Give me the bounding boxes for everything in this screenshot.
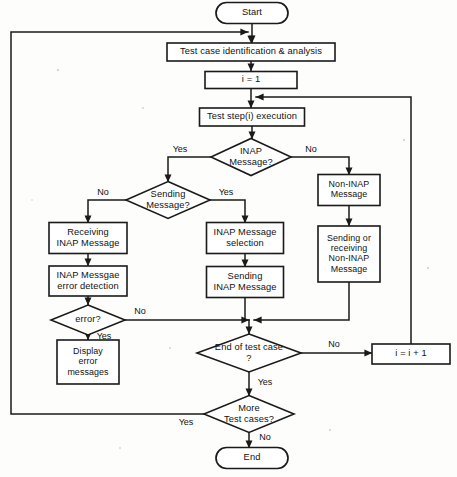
node-label-sendq: Message? <box>146 200 190 210</box>
node-sendinap[interactable]: SendingINAP Message <box>207 267 284 298</box>
edge-label-e-endcaseq-increment: No <box>328 339 340 349</box>
edge-e-sendq-msgselect <box>210 200 245 223</box>
edge-e-increment-teststep <box>256 97 411 344</box>
node-label-recvinap: INAP Message <box>56 238 119 248</box>
node-label-identify: Test case identification & analysis <box>180 46 322 56</box>
node-teststep[interactable]: Test step(i) execution <box>200 108 305 126</box>
node-label-inapq: Message? <box>229 157 273 167</box>
node-label-sendinap: Sending <box>228 271 263 281</box>
node-label-sendinap: INAP Message <box>213 282 276 292</box>
edge-label-e-inapq-noninap: No <box>305 144 317 154</box>
node-label-recvinap: Receiving <box>67 227 109 237</box>
node-label-msgselect: selection <box>226 238 264 248</box>
edge-e-inapq-sendq <box>168 157 211 182</box>
flowchart-svg: StartTest case identification & analysis… <box>0 0 457 477</box>
node-inapq[interactable]: INAPMessage? <box>211 139 291 176</box>
edge-e-sendq-recvinap <box>88 200 126 223</box>
nodes-layer: StartTest case identification & analysis… <box>49 3 450 469</box>
node-label-msgselect: INAP Message <box>213 227 276 237</box>
node-label-sendrecv: Message <box>331 264 368 274</box>
node-identify[interactable]: Test case identification & analysis <box>167 43 335 61</box>
node-label-teststep: Test step(i) execution <box>207 111 297 121</box>
node-display[interactable]: Displayerrormessages <box>57 340 119 384</box>
node-label-morecasesq: More <box>238 403 260 413</box>
node-label-errdetect: INAP Messgae <box>56 270 119 280</box>
edge-label-e-inapq-sendq: Yes <box>173 144 188 154</box>
node-label-morecasesq: Test cases? <box>224 414 274 424</box>
node-label-noninap: Non-INAP <box>329 179 370 189</box>
node-label-display: Display <box>73 346 103 356</box>
node-label-endcaseq: ? <box>246 353 251 363</box>
node-label-errorq: error? <box>75 314 100 324</box>
node-errdetect[interactable]: INAP Messgaeerror detection <box>49 266 127 296</box>
edge-label-e-endcaseq-morecases: Yes <box>258 377 273 387</box>
node-sendrecv[interactable]: Sending orreceivingNon-INAPMessage <box>318 226 380 282</box>
edge-label-e-errorq-display: Yes <box>97 331 112 341</box>
edge-label-e-morecases-end: No <box>259 432 271 442</box>
node-label-sendq: Sending <box>151 189 186 199</box>
node-msgselect[interactable]: INAP Messageselection <box>207 223 284 254</box>
loop-arrowhead-into-identify <box>247 36 254 43</box>
edge-e-inapq-noninap <box>291 157 349 175</box>
node-noninap[interactable]: Non-INAPMessage <box>318 175 380 206</box>
node-morecasesq[interactable]: MoreTest cases? <box>204 396 294 433</box>
flowchart-canvas: StartTest case identification & analysis… <box>0 0 457 477</box>
node-label-sendrecv: Sending or <box>327 233 371 243</box>
edge-label-e-errorq-join: No <box>134 306 146 316</box>
node-label-noninap: Message <box>331 189 368 199</box>
node-label-display: messages <box>67 367 109 377</box>
node-errorq[interactable]: error? <box>51 305 125 335</box>
node-label-sendrecv: receiving <box>331 243 367 253</box>
node-label-errdetect: error detection <box>57 281 118 291</box>
node-increment[interactable]: i = i + 1 <box>372 344 450 364</box>
node-label-start: Start <box>242 7 262 17</box>
edge-label-e-sendq-recvinap: No <box>97 187 109 197</box>
node-sendq[interactable]: SendingMessage? <box>126 182 210 219</box>
node-end[interactable]: End <box>216 448 288 469</box>
node-recvinap[interactable]: ReceivingINAP Message <box>49 223 127 254</box>
edge-label-e-sendq-msgselect: Yes <box>219 187 234 197</box>
node-start[interactable]: Start <box>216 3 288 24</box>
node-label-endcaseq: End of test case <box>215 342 283 352</box>
node-label-inapq: INAP <box>240 146 262 156</box>
node-label-end: End <box>244 452 261 462</box>
node-label-display: error <box>78 356 97 366</box>
node-endcaseq[interactable]: End of test case? <box>197 334 301 372</box>
edge-label-e-morecases-identify: Yes <box>179 417 194 427</box>
node-init[interactable]: i = 1 <box>205 72 297 89</box>
node-label-sendrecv: Non-INAP <box>329 253 370 263</box>
node-label-increment: i = i + 1 <box>395 348 426 358</box>
node-label-init: i = 1 <box>242 74 260 84</box>
